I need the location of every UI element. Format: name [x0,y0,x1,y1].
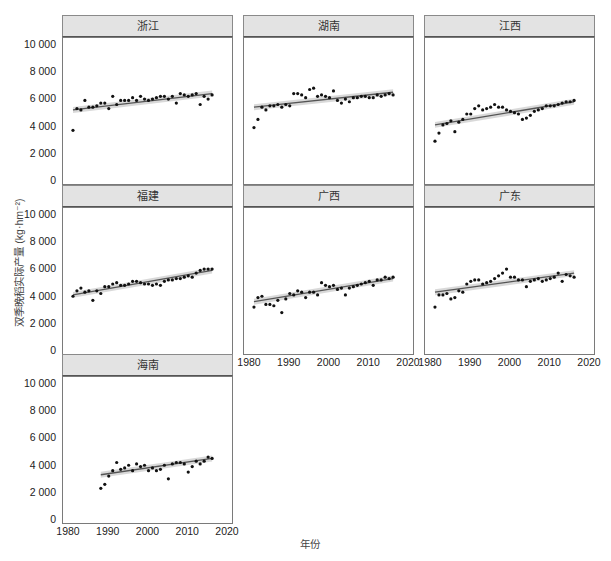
data-point [276,299,279,302]
data-point [115,103,118,106]
data-point [433,306,436,309]
facet-strip-label: 海南 [62,354,233,376]
data-point [505,108,508,111]
data-point [493,103,496,106]
plot-area [243,207,414,355]
data-point [103,102,106,105]
data-point [163,464,166,467]
data-point [453,296,456,299]
data-point [332,89,335,92]
data-point [549,104,552,107]
x-tick-label: 1980 [412,356,448,368]
data-point [537,108,540,111]
data-point [75,289,78,292]
y-tick-label: 8 000 [6,235,56,247]
data-point [533,110,536,113]
data-point [541,107,544,110]
data-point [119,468,122,471]
data-point [489,106,492,109]
data-point [509,110,512,113]
x-tick-label: 2000 [492,356,528,368]
data-point [324,284,327,287]
data-point [143,464,146,467]
data-point [340,286,343,289]
data-point [135,280,138,283]
facet-strip-label: 福建 [62,185,233,207]
data-point [296,92,299,95]
data-point [336,99,339,102]
data-point [179,92,182,95]
y-tick-label: 4 000 [6,290,56,302]
facet-panel: 海南 [62,354,233,524]
data-point [147,469,150,472]
y-tick-label: 0 [6,344,56,356]
data-point [541,280,544,283]
facet-strip-label: 江西 [424,15,595,37]
data-point [453,130,456,133]
data-point [352,96,355,99]
data-point [199,462,202,465]
data-point [111,469,114,472]
data-point [151,284,154,287]
data-point [123,99,126,102]
x-tick-label: 2020 [209,525,245,537]
data-point [477,104,480,107]
data-point [183,276,186,279]
data-point [151,466,154,469]
data-point [191,276,194,279]
data-point [388,277,391,280]
data-point [433,140,436,143]
data-point [111,282,114,285]
facet-panel: 福建 [62,185,233,355]
data-point [521,118,524,121]
data-point [167,477,170,480]
y-tick-label: 10 000 [6,377,56,389]
data-point [288,104,291,107]
data-point [127,282,130,285]
data-point [360,95,363,98]
data-point [497,274,500,277]
data-point [569,274,572,277]
data-point [179,461,182,464]
data-point [493,277,496,280]
data-point [183,462,186,465]
data-point [252,306,255,309]
data-point [501,272,504,275]
data-point [461,291,464,294]
data-point [159,468,162,471]
data-point [135,462,138,465]
data-point [445,292,448,295]
data-point [203,267,206,270]
data-point [107,285,110,288]
data-point [513,111,516,114]
data-point [545,278,548,281]
facet-panel: 湖南 [243,15,414,185]
y-tick-label: 10 000 [6,38,56,50]
data-point [320,93,323,96]
data-point [79,108,82,111]
data-point [473,107,476,110]
data-point [517,278,520,281]
data-point [561,280,564,283]
data-point [171,462,174,465]
scatter-plot [63,38,234,186]
data-point [328,285,331,288]
scatter-plot [63,377,234,525]
data-point [473,278,476,281]
data-point [175,102,178,105]
data-point [103,483,106,486]
data-point [561,102,564,105]
data-point [461,118,464,121]
data-point [175,461,178,464]
data-point [392,93,395,96]
data-point [380,278,383,281]
data-point [143,282,146,285]
data-point [437,293,440,296]
y-tick-label: 0 [6,513,56,525]
y-tick-label: 4 000 [6,120,56,132]
data-point [276,103,279,106]
data-point [457,289,460,292]
data-point [380,95,383,98]
trend-line [254,279,393,302]
data-point [268,104,271,107]
